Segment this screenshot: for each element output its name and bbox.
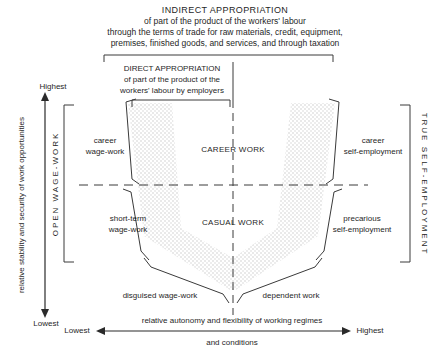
open-wage-work-label: OPEN WAGE-WORK bbox=[50, 132, 61, 237]
true-self-employment-label: TRUE SELF-EMPLOYMENT bbox=[419, 113, 430, 256]
precarious-self-employment-line2: self-employment bbox=[328, 224, 396, 235]
horizontal-axis-highest-label: Highest bbox=[349, 325, 391, 336]
horizontal-axis-title-line1: relative autonomy and flexibility of wor… bbox=[82, 315, 382, 326]
indirect-appropriation-line3: through the terms of trade for raw mater… bbox=[50, 27, 400, 38]
career-self-employment-line2: self-employment bbox=[340, 146, 406, 157]
direct-appropriation-line2: of part of the product of the bbox=[110, 74, 234, 85]
direct-appropriation-line3: workers' labour by employers bbox=[110, 85, 234, 96]
vertical-axis-title: relative stability and security of work … bbox=[16, 117, 27, 293]
precarious-self-employment-label: precarious self-employment bbox=[328, 213, 396, 235]
horizontal-axis-lowest-label: Lowest bbox=[57, 325, 97, 336]
vertical-axis-arrow bbox=[41, 92, 49, 318]
horizontal-axis-arrow bbox=[96, 327, 351, 335]
indirect-appropriation-line2: of part of the product of the workers' l… bbox=[50, 16, 400, 27]
casual-work-label: CASUAL WORK bbox=[173, 217, 293, 228]
short-term-wage-work-line1: short-term bbox=[98, 213, 158, 224]
u-shape-stipple-band bbox=[128, 103, 335, 290]
dependent-work-label: dependent work bbox=[241, 290, 341, 301]
horizontal-axis-title-line2: and conditions bbox=[82, 337, 382, 348]
short-term-wage-work-line2: wage-work bbox=[98, 224, 158, 235]
career-wage-work-line2: wage-work bbox=[75, 146, 135, 157]
indirect-appropriation-title: INDIRECT APPROPRIATION bbox=[50, 5, 400, 16]
true-self-employment-bracket bbox=[400, 105, 410, 262]
career-self-employment-line1: career bbox=[340, 135, 406, 146]
direct-appropriation-heading: DIRECT APPROPRIATION of part of the prod… bbox=[110, 63, 234, 96]
diagram-shapes-layer bbox=[0, 0, 445, 355]
indirect-appropriation-heading: INDIRECT APPROPRIATION of part of the pr… bbox=[50, 5, 400, 49]
career-work-label: CAREER WORK bbox=[173, 144, 293, 155]
indirect-appropriation-bracket bbox=[104, 55, 333, 62]
career-self-employment-label: career self-employment bbox=[340, 135, 406, 157]
precarious-self-employment-line1: precarious bbox=[328, 213, 396, 224]
direct-appropriation-title: DIRECT APPROPRIATION bbox=[110, 63, 234, 74]
short-term-wage-work-label: short-term wage-work bbox=[98, 213, 158, 235]
career-wage-work-line1: career bbox=[75, 135, 135, 146]
diagram-canvas: INDIRECT APPROPRIATION of part of the pr… bbox=[0, 0, 445, 355]
open-wage-work-bracket bbox=[64, 105, 74, 262]
indirect-appropriation-line4: premises, finished goods, and services, … bbox=[50, 38, 400, 49]
vertical-axis-highest-label: Highest bbox=[33, 81, 73, 92]
disguised-wage-work-label: disguised wage-work bbox=[110, 290, 210, 301]
career-wage-work-label: career wage-work bbox=[75, 135, 135, 157]
